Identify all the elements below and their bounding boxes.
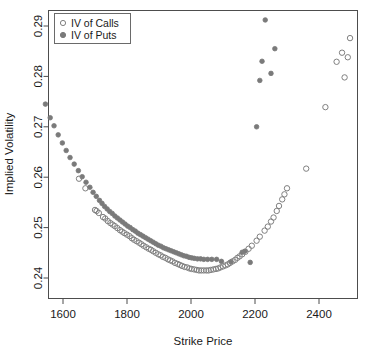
data-point bbox=[43, 102, 48, 107]
data-point bbox=[68, 155, 73, 160]
chart-canvas: 0.240.250.260.270.280.29 160018002000220… bbox=[0, 0, 378, 356]
data-point bbox=[263, 18, 268, 23]
x-tick-label: 2000 bbox=[178, 308, 204, 320]
data-point bbox=[248, 260, 253, 265]
data-point bbox=[219, 259, 224, 264]
data-point bbox=[64, 148, 69, 153]
data-point bbox=[56, 133, 61, 138]
legend-filled-circle-icon bbox=[60, 32, 65, 37]
x-axis-title: Strike Price bbox=[174, 335, 233, 347]
data-point bbox=[260, 59, 265, 64]
y-tick-label: 0.29 bbox=[32, 15, 44, 37]
data-point bbox=[60, 141, 65, 146]
data-point bbox=[258, 78, 263, 83]
data-point bbox=[76, 168, 81, 173]
data-point bbox=[214, 257, 219, 262]
y-tick-label: 0.26 bbox=[32, 166, 44, 188]
y-tick-label: 0.25 bbox=[32, 216, 44, 238]
legend-label-calls: IV of Calls bbox=[71, 17, 119, 29]
data-point bbox=[210, 257, 215, 262]
y-tick-label: 0.28 bbox=[32, 65, 44, 87]
chart-legend: IV of Calls IV of Puts bbox=[55, 14, 131, 44]
x-tick-label: 2400 bbox=[306, 308, 332, 320]
implied-volatility-smile-chart: 0.240.250.260.270.280.29 160018002000220… bbox=[0, 0, 378, 356]
data-point bbox=[52, 123, 57, 128]
x-tick-label: 1600 bbox=[50, 308, 76, 320]
data-point bbox=[273, 46, 278, 51]
data-point bbox=[91, 190, 96, 195]
y-tick-label: 0.27 bbox=[32, 116, 44, 138]
x-tick-label: 1800 bbox=[114, 308, 140, 320]
legend-label-puts: IV of Puts bbox=[71, 29, 117, 41]
data-point bbox=[48, 115, 53, 120]
y-tick-label: 0.24 bbox=[32, 266, 44, 289]
data-point bbox=[72, 162, 77, 167]
chart-background bbox=[0, 0, 378, 356]
data-point bbox=[94, 194, 99, 199]
y-axis-title: Implied Volatility bbox=[3, 113, 15, 196]
data-point bbox=[269, 71, 274, 76]
x-tick-label: 2200 bbox=[242, 308, 268, 320]
data-point bbox=[254, 125, 259, 130]
data-point bbox=[84, 180, 89, 185]
